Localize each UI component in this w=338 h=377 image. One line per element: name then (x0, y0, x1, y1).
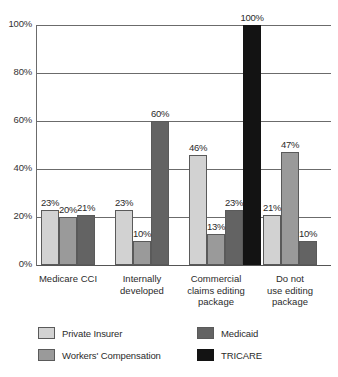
bar-value-label: 23% (41, 197, 59, 208)
bar-chart-figure: 0%20%40%60%80%100% 23%20%21%23%10%60%46%… (0, 0, 338, 377)
legend-swatch-icon (197, 349, 214, 361)
bar-value-label: 10% (299, 228, 317, 239)
legend-swatch-icon (38, 349, 55, 361)
legend-label: Medicaid (221, 328, 258, 339)
x-axis-category-label: Do not use editing package (247, 273, 333, 308)
bar-value-label: 60% (151, 108, 169, 119)
bar-value-label: 10% (133, 228, 151, 239)
legend-item: TRICARE (197, 349, 262, 361)
legend-label: TRICARE (221, 350, 262, 361)
bar-value-label: 23% (225, 197, 243, 208)
bar-value-label: 47% (281, 139, 299, 150)
legend-label: Private Insurer (62, 328, 122, 339)
bar-value-label: 46% (189, 142, 207, 153)
bar-value-label: 20% (59, 204, 77, 215)
data-labels-layer: 23%20%21%23%10%60%46%13%23%100%21%47%10%… (0, 0, 338, 290)
chart-legend: Private InsurerMedicaidWorkers' Compensa… (0, 325, 338, 373)
legend-swatch-icon (197, 327, 214, 339)
plot-area: 0%20%40%60%80%100% 23%20%21%23%10%60%46%… (0, 0, 338, 290)
bar-value-label: 23% (115, 197, 133, 208)
bar-value-label: 13% (207, 221, 225, 232)
bar-value-label: 100% (240, 12, 263, 23)
legend-item: Private Insurer (38, 327, 122, 339)
legend-label: Workers' Compensation (62, 350, 161, 361)
bar-value-label: 21% (77, 202, 95, 213)
legend-item: Workers' Compensation (38, 349, 161, 361)
legend-item: Medicaid (197, 327, 258, 339)
legend-swatch-icon (38, 327, 55, 339)
bar-value-label: 21% (263, 202, 281, 213)
